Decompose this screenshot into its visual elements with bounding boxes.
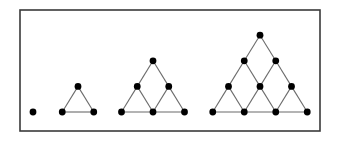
lattice-dot xyxy=(304,109,311,116)
lattice-dot xyxy=(257,32,264,39)
lattice-dot xyxy=(150,57,157,64)
lattice-dot xyxy=(75,83,82,90)
lattice-dot xyxy=(225,83,232,90)
lattice-dot xyxy=(118,109,125,116)
lattice-dot xyxy=(165,83,172,90)
lattice-dot xyxy=(241,57,248,64)
lattice-dot xyxy=(288,83,295,90)
lattice-dot xyxy=(241,109,248,116)
figure-background xyxy=(0,0,338,144)
lattice-dot xyxy=(134,83,141,90)
lattice-dot xyxy=(257,83,264,90)
lattice-dot xyxy=(150,109,157,116)
triangular-numbers-figure xyxy=(0,0,338,144)
lattice-dot xyxy=(181,109,188,116)
lattice-dot xyxy=(90,109,97,116)
lattice-dot xyxy=(30,109,37,116)
triangular-number-1-dots xyxy=(30,109,37,116)
lattice-dot xyxy=(272,109,279,116)
lattice-dot xyxy=(59,109,66,116)
lattice-dot xyxy=(272,57,279,64)
lattice-dot xyxy=(209,109,216,116)
